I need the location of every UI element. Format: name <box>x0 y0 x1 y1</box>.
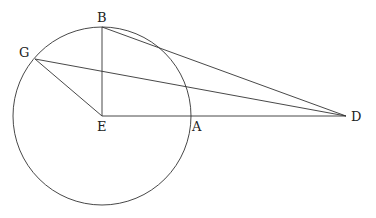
label-D: D <box>351 109 361 124</box>
segment-GE <box>35 59 102 116</box>
segment-BD <box>102 27 346 116</box>
label-E: E <box>97 119 107 134</box>
label-A: A <box>191 119 202 134</box>
geometry-diagram: B G E A D <box>0 0 376 218</box>
label-G: G <box>19 45 29 60</box>
label-B: B <box>97 10 107 25</box>
